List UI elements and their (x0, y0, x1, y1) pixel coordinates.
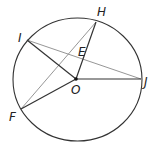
label-e: E (78, 45, 86, 59)
label-h: H (97, 5, 106, 19)
segment-of (21, 79, 76, 109)
label-i: I (18, 31, 22, 45)
circle-diagram: H I E O J F (0, 0, 155, 150)
center-point (74, 77, 78, 81)
label-j: J (142, 75, 148, 89)
label-f: F (9, 110, 17, 124)
label-o: O (71, 83, 80, 97)
